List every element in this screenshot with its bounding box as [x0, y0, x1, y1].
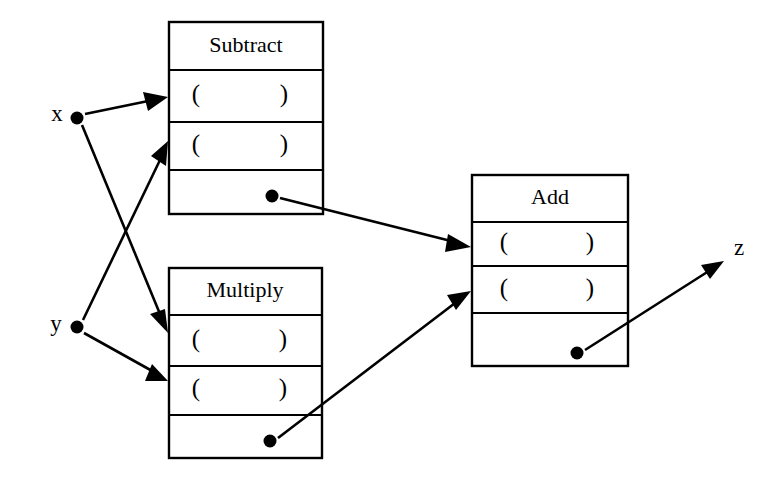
node-subtract[interactable]: Subtract ( ) ( ) [169, 22, 323, 214]
node-subtract-arg2-close-paren: ) [280, 130, 288, 158]
node-multiply-arg2-open-paren: ( [192, 374, 200, 402]
edge-x-to-subtract-arg1[interactable] [85, 92, 168, 114]
terminal-x[interactable]: x [51, 101, 83, 126]
node-add-arg1-open-paren: ( [500, 228, 508, 256]
edge-y-to-multiply-arg2-line [84, 333, 154, 372]
edge-subtract-result-to-add-arg1-arrowhead [445, 234, 471, 252]
terminal-y-dot[interactable] [71, 321, 84, 334]
node-add-result-port[interactable] [571, 347, 584, 360]
terminal-y-label: y [50, 311, 62, 336]
edge-x-to-multiply-arg1-line [82, 125, 160, 314]
node-subtract-result-port[interactable] [266, 190, 279, 203]
terminal-z[interactable]: z [734, 235, 744, 260]
terminal-z-label: z [734, 235, 744, 260]
edge-x-to-subtract-arg1-arrowhead [143, 92, 168, 111]
node-add-title: Add [531, 184, 569, 209]
edge-y-to-multiply-arg2-arrowhead [145, 364, 168, 381]
node-multiply-arg1-open-paren: ( [192, 325, 200, 353]
node-multiply-result-port[interactable] [264, 435, 277, 448]
terminal-x-dot[interactable] [71, 112, 84, 125]
terminal-y[interactable]: y [50, 311, 83, 336]
terminal-x-label: x [51, 101, 63, 126]
node-add-arg1-close-paren: ) [586, 228, 594, 256]
edge-add-result-to-z-arrowhead [701, 261, 724, 279]
node-subtract-title: Subtract [209, 32, 282, 57]
node-multiply-arg2-close-paren: ) [279, 374, 287, 402]
edge-subtract-result-to-add-arg1[interactable] [280, 198, 471, 252]
node-subtract-arg1-open-paren: ( [192, 80, 200, 108]
node-add-arg2-close-paren: ) [586, 274, 594, 302]
node-subtract-arg2-open-paren: ( [192, 130, 200, 158]
edge-subtract-result-to-add-arg1-line [280, 198, 459, 243]
edge-y-to-subtract-arg2[interactable] [83, 141, 168, 320]
node-multiply[interactable]: Multiply ( ) ( ) [169, 268, 322, 458]
dataflow-diagram: Subtract ( ) ( ) Multiply ( ) ( ) Add ( [0, 0, 778, 486]
edge-y-to-multiply-arg2[interactable] [84, 333, 168, 381]
node-multiply-arg1-close-paren: ) [279, 325, 287, 353]
diagram-canvas: Subtract ( ) ( ) Multiply ( ) ( ) Add ( [0, 0, 778, 486]
node-subtract-arg1-close-paren: ) [280, 80, 288, 108]
node-add-arg2-open-paren: ( [500, 274, 508, 302]
edge-x-to-multiply-arg1-arrowhead [150, 309, 168, 333]
edge-y-to-subtract-arg2-line [83, 160, 160, 320]
node-multiply-title: Multiply [206, 277, 283, 302]
